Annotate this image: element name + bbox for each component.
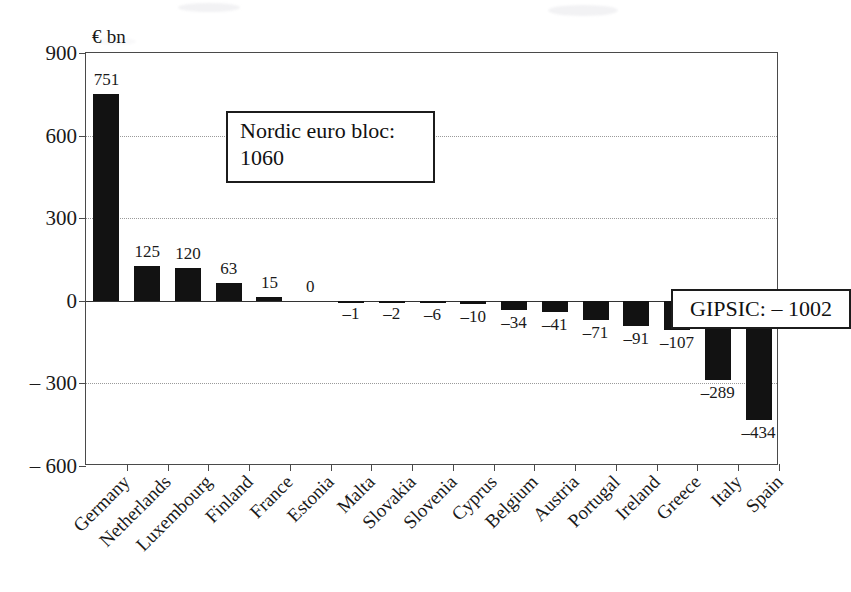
y-tick--300 [79,383,86,384]
y-tick-900 [79,53,86,54]
bar-cyprus [460,301,486,304]
value-label-france: 15 [261,273,278,293]
x-label-greece: Greece [652,471,706,525]
value-label-estonia: 0 [306,277,315,297]
bar-austria [542,301,568,312]
value-label-portugal: –71 [583,323,609,343]
y-tick-600 [79,136,86,137]
y-tick-label--600: – 600 [30,454,77,479]
y-tick-label-900: 900 [46,41,78,66]
value-label-cyprus: –10 [461,307,487,327]
gridline-300 [86,218,777,219]
value-label-finland: 63 [220,259,237,279]
value-label-belgium: –34 [501,313,527,333]
annotation-nordic-euro-bloc: Nordic euro bloc: 1060 [226,111,435,183]
x-label-ireland: Ireland [611,471,665,525]
gridline--300 [86,383,777,384]
value-label-luxembourg: 120 [175,244,201,264]
y-tick-0 [79,301,86,302]
y-tick-label-600: 600 [46,123,78,148]
y-tick-label-0: 0 [67,288,78,313]
bar-finland [216,283,242,300]
plot-area: 75112512063150–1–2–6–10–34–41–71–91–107–… [85,52,778,465]
x-label-italy: Italy [706,471,746,511]
value-label-slovenia: –6 [424,305,441,325]
value-label-spain: –434 [742,423,776,443]
y-tick-label--300: – 300 [30,371,77,396]
annotation-gipsic-text: GIPSIC: – 1002 [690,296,832,323]
value-label-germany: 751 [94,70,120,90]
x-tick-16 [779,464,780,471]
value-label-italy: –289 [701,383,735,403]
annotation-nordic-line2: 1060 [240,145,421,172]
bar-netherlands [134,266,160,300]
x-label-spain: Spain [741,471,787,517]
value-label-greece: –107 [660,333,694,353]
y-tick-label-300: 300 [46,206,78,231]
annotation-gipsic: GIPSIC: – 1002 [671,289,851,329]
value-label-ireland: –91 [624,329,650,349]
bar-belgium [501,301,527,310]
value-label-austria: –41 [542,315,568,335]
bar-malta [338,301,364,303]
value-label-slovakia: –2 [383,304,400,324]
bar-ireland [623,301,649,326]
value-label-netherlands: 125 [134,242,160,262]
annotation-nordic-line1: Nordic euro bloc: [240,118,421,145]
bar-slovenia [420,301,446,303]
bar-luxembourg [175,268,201,301]
y-axis-unit-label: € bn [92,26,126,48]
bar-germany [93,94,119,301]
bar-france [256,297,282,301]
bar-portugal [583,301,609,321]
value-label-malta: –1 [342,304,359,324]
x-axis-category-labels: GermanyNetherlandsLuxembourgFinlandFranc… [85,465,778,585]
y-tick-300 [79,218,86,219]
bar-slovakia [379,301,405,303]
